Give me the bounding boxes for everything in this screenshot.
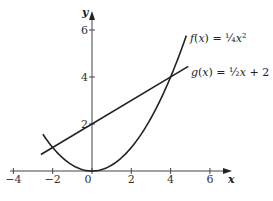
- function-graph: xy −4−20246246 f(x) = ¼x2g(x) = ½x + 2: [0, 0, 273, 201]
- x-tick-label: 4: [167, 173, 174, 186]
- x-tick-label: −4: [5, 173, 21, 186]
- curves: [41, 36, 188, 171]
- f-function-label: f(x) = ¼x2: [189, 32, 246, 45]
- x-axis-label: x: [227, 173, 235, 186]
- x-tick-label: 0: [85, 173, 92, 186]
- y-tick-label: 6: [81, 24, 88, 37]
- series-f-parabola: [43, 36, 186, 171]
- x-tick-label: 6: [206, 173, 213, 186]
- y-tick-label: 4: [81, 71, 88, 84]
- x-tick-label: 2: [128, 173, 135, 186]
- y-axis-arrow-icon: [89, 11, 95, 20]
- g-function-label: g(x) = ½x + 2: [191, 66, 269, 79]
- function-labels: f(x) = ¼x2g(x) = ½x + 2: [189, 32, 269, 79]
- y-axis-label: y: [81, 6, 90, 19]
- series-g-line: [41, 66, 188, 154]
- x-tick-label: −2: [45, 173, 61, 186]
